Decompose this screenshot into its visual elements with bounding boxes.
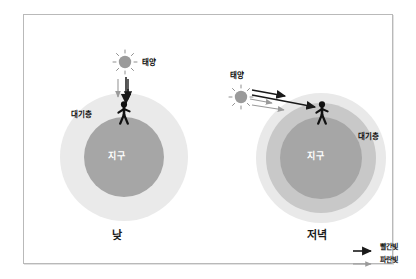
- sun-icon: [112, 49, 138, 75]
- scene-evening: 대기층 지구 태양: [222, 37, 412, 252]
- day-atmosphere-label: 대기층: [71, 108, 92, 119]
- evening-ray-red-short: [252, 90, 285, 96]
- day-earth-label: 지구: [108, 149, 125, 162]
- person-icon: [314, 101, 330, 125]
- blue-light-arrow-icon: [352, 255, 376, 265]
- legend-item-red-light: 빨간빛: [352, 241, 410, 252]
- evening-earth-label: 지구: [307, 149, 324, 162]
- evening-caption: 저녁: [307, 226, 327, 242]
- diagram-canvas: 대기층 지구 태양: [0, 0, 416, 279]
- day-sun-label: 태양: [142, 56, 156, 67]
- legend-label-blue-light: 파란빛: [380, 256, 398, 263]
- legend: 빨간빛 파란빛: [352, 241, 410, 267]
- diagram-frame: 대기층 지구 태양: [23, 14, 393, 264]
- red-light-arrow-icon: [352, 242, 376, 252]
- person-icon: [116, 101, 132, 125]
- sun-icon: [228, 84, 254, 110]
- scene-day: 대기층 지구 태양: [56, 37, 226, 252]
- legend-label-red-light: 빨간빛: [380, 243, 398, 250]
- day-caption: 낮: [112, 226, 122, 242]
- evening-sun-label: 태양: [230, 69, 244, 80]
- legend-item-blue-light: 파란빛: [352, 254, 410, 265]
- evening-atmosphere-label: 대기층: [358, 130, 379, 141]
